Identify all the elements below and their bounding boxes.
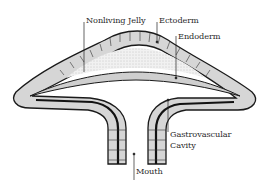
label-ectoderm: Ectoderm	[159, 16, 199, 24]
label-nonliving-jelly: Nonliving Jelly	[86, 16, 145, 24]
label-cavity: Cavity	[170, 141, 196, 149]
label-gastrovascular: Gastrovascular	[170, 130, 231, 138]
label-endoderm: Endoderm	[178, 32, 220, 40]
diagram-figure	[0, 0, 271, 182]
endoderm-layer	[30, 72, 240, 164]
label-mouth: Mouth	[136, 167, 163, 175]
